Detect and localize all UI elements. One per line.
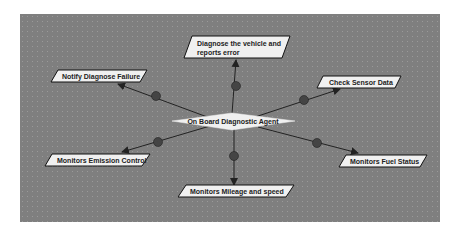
node-emission-label: Monitors Emission Control bbox=[57, 157, 147, 164]
node-mileage[interactable]: Monitors Mileage and speed bbox=[178, 185, 294, 197]
edge-sensor bbox=[255, 89, 340, 117]
edge-fuel bbox=[258, 127, 358, 153]
node-notify[interactable]: Notify Diagnose Failure bbox=[51, 70, 147, 82]
node-sensor-label: Check Sensor Data bbox=[329, 79, 393, 86]
node-diagnose-line2: reports error bbox=[197, 49, 240, 57]
edge-notify bbox=[118, 84, 210, 118]
diagram: On Board Diagnostic Agent Diagnose the v… bbox=[0, 0, 456, 236]
center-node-label: On Board Diagnostic Agent bbox=[187, 118, 279, 126]
node-fuel-label: Monitors Fuel Status bbox=[350, 158, 419, 165]
junction-dot bbox=[230, 152, 239, 161]
junction-dot bbox=[300, 96, 309, 105]
edge-emission bbox=[122, 126, 210, 152]
junction-dot bbox=[313, 139, 322, 148]
junction-dot bbox=[154, 138, 163, 147]
node-sensor[interactable]: Check Sensor Data bbox=[317, 76, 401, 88]
node-fuel[interactable]: Monitors Fuel Status bbox=[339, 155, 427, 167]
node-diagnose[interactable]: Diagnose the vehicle and reports error bbox=[184, 36, 290, 58]
node-emission[interactable]: Monitors Emission Control bbox=[45, 154, 150, 166]
center-node[interactable]: On Board Diagnostic Agent bbox=[172, 113, 295, 130]
node-mileage-label: Monitors Mileage and speed bbox=[190, 188, 284, 196]
junction-dot bbox=[152, 92, 161, 101]
junction-dot bbox=[232, 82, 241, 91]
node-notify-label: Notify Diagnose Failure bbox=[62, 73, 140, 81]
node-diagnose-line1: Diagnose the vehicle and bbox=[197, 40, 281, 48]
